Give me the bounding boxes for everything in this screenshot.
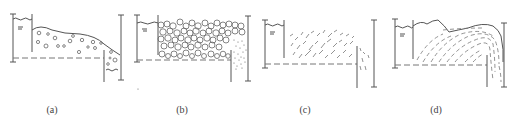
panel-d: (d) bbox=[383, 0, 511, 131]
panel-b: (b) bbox=[128, 0, 256, 131]
panel-a: (a) bbox=[0, 0, 128, 131]
panel-c-caption: (c) bbox=[285, 104, 325, 115]
panel-c: (c) bbox=[255, 0, 383, 131]
panel-b-caption: (b) bbox=[162, 104, 202, 115]
panel-a-caption: (a) bbox=[32, 104, 72, 115]
panel-d-caption: (d) bbox=[416, 104, 456, 115]
